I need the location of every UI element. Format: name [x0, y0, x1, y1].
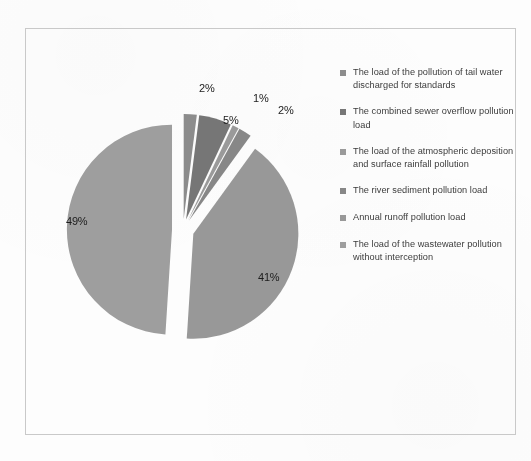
- legend-item-combined-sewer-overflow[interactable]: The combined sewer overflow pollution lo…: [340, 105, 516, 131]
- pie-slices-group: [67, 114, 298, 339]
- legend-item-label: The load of the atmospheric deposition a…: [353, 145, 516, 171]
- legend-marker-icon: [340, 188, 346, 194]
- pie-chart-plot-area: 2% 5% 1% 2% 41% 49%: [25, 28, 335, 435]
- legend-marker-icon: [340, 149, 346, 155]
- pie-chart-svg: [25, 28, 335, 435]
- legend-item-river-sediment[interactable]: The river sediment pollution load: [340, 184, 516, 198]
- legend-item-label: The load of the wastewater pollution wit…: [353, 238, 516, 264]
- legend-item-atmospheric-deposition[interactable]: The load of the atmospheric deposition a…: [340, 145, 516, 171]
- legend-item-wastewater-without-interception[interactable]: The load of the wastewater pollution wit…: [340, 238, 516, 264]
- slice-data-label-6: 49%: [66, 215, 87, 227]
- legend-item-annual-runoff[interactable]: Annual runoff pollution load: [340, 211, 516, 225]
- legend-marker-icon: [340, 109, 346, 115]
- legend-marker-icon: [340, 215, 346, 221]
- slice-data-label-1: 2%: [199, 82, 215, 94]
- legend-item-label: The river sediment pollution load: [353, 184, 516, 197]
- legend-item-label: The combined sewer overflow pollution lo…: [353, 105, 516, 131]
- slice-data-label-2: 5%: [223, 114, 239, 126]
- slice-data-label-5: 41%: [258, 271, 279, 283]
- legend-marker-icon: [340, 242, 346, 248]
- legend-item-label: The load of the pollution of tail water …: [353, 66, 516, 92]
- chart-legend: The load of the pollution of tail water …: [340, 66, 516, 278]
- pie-slice[interactable]: [67, 125, 172, 335]
- slice-data-label-4: 2%: [278, 104, 294, 116]
- legend-marker-icon: [340, 70, 346, 76]
- legend-item-label: Annual runoff pollution load: [353, 211, 516, 224]
- slice-data-label-3: 1%: [253, 92, 269, 104]
- legend-item-tail-water[interactable]: The load of the pollution of tail water …: [340, 66, 516, 92]
